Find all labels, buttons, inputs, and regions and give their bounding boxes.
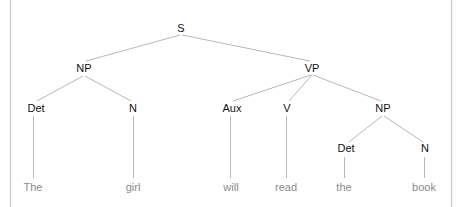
leaf-the-object: the (336, 181, 351, 193)
node-vp: VP (305, 62, 320, 74)
leaf-will: will (222, 181, 238, 193)
leaf-girl: girl (126, 181, 141, 193)
node-np-subject: NP (76, 62, 91, 74)
node-n-object: N (421, 142, 429, 154)
tree-nodes: S NP VP Det N Aux V NP Det N (27, 22, 429, 154)
edge-np-n (85, 76, 131, 101)
node-s: S (177, 22, 184, 34)
leaf-read: read (275, 181, 297, 193)
node-v: V (283, 102, 291, 114)
node-det-object: Det (337, 142, 354, 154)
node-det: Det (27, 102, 44, 114)
edge-np2-n (384, 116, 423, 142)
tree-leaves: The girl will read the book (24, 181, 437, 193)
node-n: N (129, 102, 137, 114)
node-aux: Aux (223, 102, 242, 114)
edge-np-det (37, 76, 83, 101)
node-np-object: NP (375, 102, 390, 114)
syntax-tree-diagram: S NP VP Det N Aux V NP Det N The girl wi… (0, 0, 458, 207)
edge-vp-aux (233, 75, 311, 101)
edge-s-vp (182, 35, 310, 61)
edge-s-np (86, 35, 180, 61)
leaf-book: book (412, 181, 436, 193)
leaf-the: The (24, 181, 43, 193)
edge-vp-np (313, 75, 381, 101)
edge-np2-det (349, 116, 382, 142)
